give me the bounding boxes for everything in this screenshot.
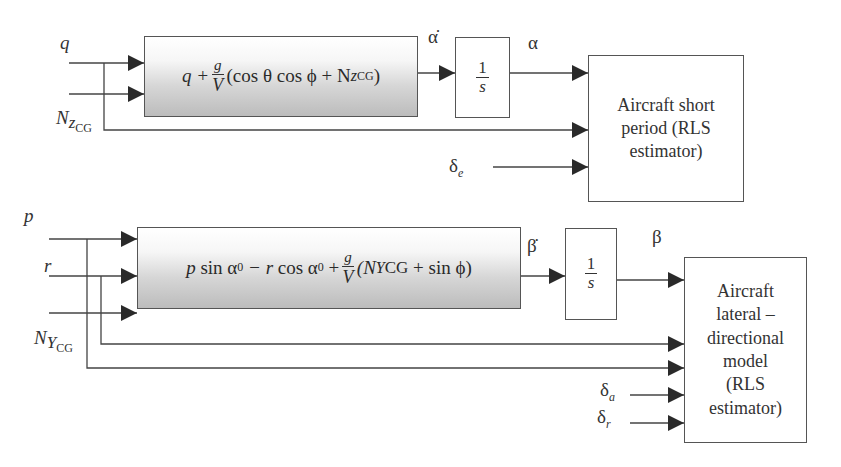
eq-sub1: Y (376, 259, 385, 277)
eq-cos-alpha: cos α (278, 257, 318, 279)
g-over-v-fraction: g V (342, 250, 354, 287)
lateral-directional-estimator-text: Aircraft lateral – directional model (RL… (707, 280, 784, 420)
q-input-label: q (60, 33, 70, 52)
eq-sin-alpha: sin α (200, 257, 237, 279)
eq-body: (cos θ cos ϕ + N (227, 65, 351, 87)
beta-dot-label: β̇ (527, 236, 537, 255)
text-line: (RLS (707, 373, 784, 396)
text-line: Aircraft short (617, 94, 714, 117)
text-line: estimator) (707, 397, 784, 420)
q-symbol: q (60, 32, 70, 53)
delta-r-label: δr (597, 407, 611, 430)
eq-sub2: CG (385, 258, 409, 278)
text-line: period (RLS (617, 117, 714, 140)
integrator-num: 1 (476, 59, 489, 78)
text-line: model (707, 350, 784, 373)
eq-lead: q + (182, 65, 209, 87)
ny-sub2: CG (56, 341, 73, 355)
frac-den: V (212, 75, 223, 95)
alpha-label: α (528, 33, 538, 52)
g-over-v-fraction: g V (212, 58, 224, 95)
delta-e-label: δe (449, 156, 463, 179)
alpha-integrator-block: 1 s (455, 37, 510, 118)
alpha-dot-label: α̇ (428, 27, 438, 46)
eq-close: ) (374, 65, 380, 87)
eq-sub2: CG (357, 69, 374, 84)
alpha-dynamics-equation: q + g V (cos θ cos ϕ + NzCG) (182, 58, 380, 95)
text-line: lateral – (707, 303, 784, 326)
nz-input-label: NzCG (56, 108, 92, 134)
delta-symbol: δ (449, 155, 458, 176)
delta-symbol: δ (600, 379, 609, 400)
delta-sub: a (609, 390, 615, 404)
text-line: directional (707, 327, 784, 350)
integrator-den: s (588, 274, 595, 293)
eq-open: (N (357, 257, 376, 279)
text-line: Aircraft (707, 280, 784, 303)
frac-num: g (342, 250, 354, 267)
delta-sub: e (458, 166, 463, 180)
delta-symbol: δ (597, 406, 606, 427)
ny-input-label: NYCG (34, 328, 73, 354)
eq-p: p (186, 257, 196, 279)
ny-sub1: Y (47, 333, 56, 352)
integrator-den: s (479, 78, 486, 97)
beta-label: β (652, 227, 662, 246)
short-period-estimator-block: Aircraft short period (RLS estimator) (588, 55, 744, 202)
delta-sub: r (606, 417, 611, 431)
ny-main-symbol: N (34, 327, 47, 348)
beta-dynamics-block: p sin α0 − r cos α0 + g V (NYCG + sin ϕ) (137, 227, 521, 309)
short-period-estimator-text: Aircraft short period (RLS estimator) (617, 94, 714, 163)
eq-tail: + sin ϕ) (413, 257, 472, 279)
lateral-directional-estimator-block: Aircraft lateral – directional model (RL… (684, 257, 807, 443)
nz-sub2: CG (75, 121, 92, 135)
integrator-fraction: 1 s (476, 59, 489, 97)
beta-integrator-block: 1 s (565, 228, 617, 320)
text-line: estimator) (617, 140, 714, 163)
p-input-label: p (24, 206, 34, 225)
nz-main-symbol: N (56, 107, 69, 128)
frac-num: g (212, 58, 224, 75)
delta-a-label: δa (600, 380, 615, 403)
eq-alpha-sub: 0 (237, 260, 243, 275)
eq-alpha-sub2: 0 (318, 260, 324, 275)
integrator-num: 1 (585, 255, 598, 274)
integrator-fraction: 1 s (585, 255, 598, 293)
eq-plus: + (329, 257, 340, 279)
alpha-dynamics-block: q + g V (cos θ cos ϕ + NzCG) (144, 36, 418, 117)
beta-dynamics-equation: p sin α0 − r cos α0 + g V (NYCG + sin ϕ) (186, 250, 472, 287)
eq-minus-r: − r (248, 257, 273, 279)
r-input-label: r (44, 256, 51, 275)
frac-den: V (343, 267, 354, 287)
